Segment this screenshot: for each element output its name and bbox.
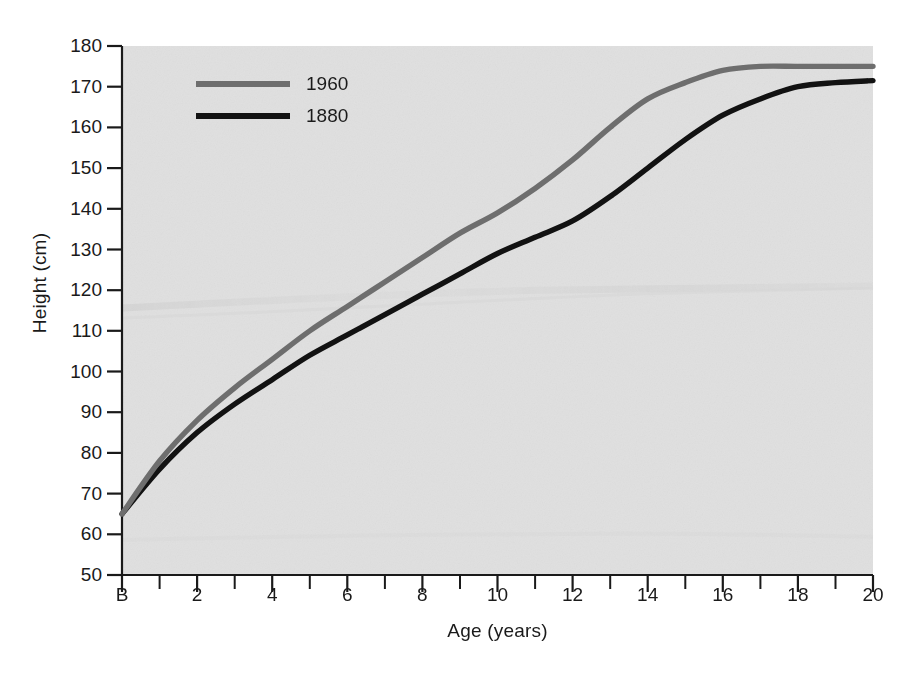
y-tick-label: 150 [42,157,102,179]
y-axis-ticks [107,46,122,575]
y-tick-label: 70 [42,483,102,505]
y-tick-label: 130 [42,239,102,261]
x-tick-label: B [92,584,152,606]
x-axis-tick-labels: B 2 4 6 8 10 12 14 16 18 20 [0,584,923,614]
x-tick-label: 18 [768,584,828,606]
x-tick-label: 6 [317,584,377,606]
y-tick-label: 160 [42,116,102,138]
y-tick-label: 180 [42,35,102,57]
x-tick-label: 10 [468,584,528,606]
plot-area-background [122,46,873,575]
legend-label-1880: 1880 [306,105,348,127]
x-tick-label: 16 [693,584,753,606]
x-tick-label: 14 [618,584,678,606]
y-tick-label: 170 [42,76,102,98]
y-tick-label: 60 [42,523,102,545]
x-tick-label: 4 [242,584,302,606]
x-tick-label: 20 [843,584,903,606]
x-axis-title: Age (years) [122,620,873,642]
y-tick-label: 120 [42,279,102,301]
y-tick-label: 50 [42,564,102,586]
x-tick-label: 12 [543,584,603,606]
growth-chart-figure: 50 60 70 80 90 100 110 120 130 140 150 1… [0,0,923,677]
x-tick-label: 8 [392,584,452,606]
chart-canvas [0,0,923,677]
y-axis-title: Height (cm) [29,183,51,383]
y-tick-label: 140 [42,198,102,220]
y-tick-label: 100 [42,361,102,383]
x-tick-label: 2 [167,584,227,606]
y-tick-label: 110 [42,320,102,342]
y-tick-label: 90 [42,401,102,423]
y-tick-label: 80 [42,442,102,464]
legend-label-1960: 1960 [306,73,348,95]
